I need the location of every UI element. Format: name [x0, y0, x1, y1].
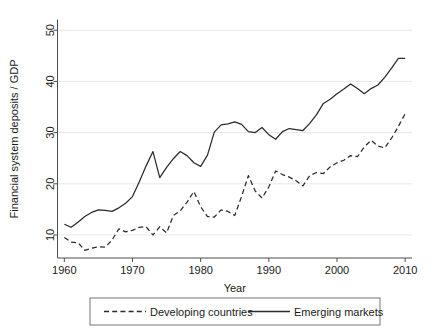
- y-tick-label: 40: [45, 75, 57, 87]
- x-tick-label: 1980: [188, 264, 212, 276]
- x-tick-label: 1960: [52, 264, 76, 276]
- y-tick-label: 10: [45, 229, 57, 241]
- plot-axes: [58, 20, 413, 259]
- gridlines: [58, 30, 413, 235]
- x-tick-label: 2010: [393, 264, 417, 276]
- x-tick-label: 2000: [325, 264, 349, 276]
- y-axis-ticks: 1020304050: [45, 24, 58, 241]
- x-axis-ticks: 196019701980199020002010: [52, 258, 417, 276]
- data-series: [64, 58, 405, 250]
- x-axis-title: Year: [224, 282, 247, 294]
- y-tick-label: 50: [45, 24, 57, 36]
- chart-legend: Developing countriesEmerging markets: [90, 298, 384, 325]
- y-tick-label: 30: [45, 126, 57, 138]
- chart-figure: 1020304050 196019701980199020002010 Fina…: [0, 0, 441, 333]
- legend-label: Developing countries: [150, 306, 253, 318]
- line-chart: 1020304050 196019701980199020002010 Fina…: [0, 0, 441, 333]
- x-tick-label: 1970: [120, 264, 144, 276]
- series-line-emerging-markets: [64, 58, 405, 227]
- y-axis-title: Financial system deposits / GDP: [8, 60, 20, 219]
- series-line-developing-countries: [64, 114, 405, 251]
- x-tick-label: 1990: [257, 264, 281, 276]
- y-tick-label: 20: [45, 178, 57, 190]
- legend-label: Emerging markets: [294, 306, 384, 318]
